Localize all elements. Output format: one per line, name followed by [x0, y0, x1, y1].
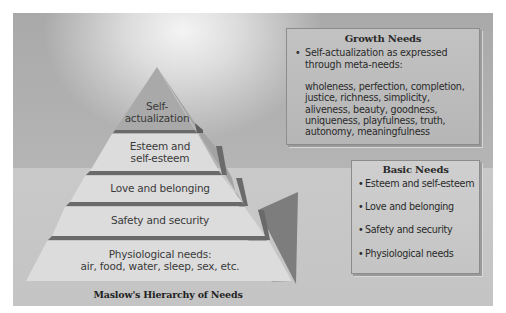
- basic-needs-item-text: Safety and security: [365, 224, 452, 235]
- meta-needs-list: wholeness, perfection, completion, justi…: [295, 81, 471, 137]
- basic-needs-box: Basic Needs •Esteem and self-esteem •Lov…: [351, 160, 480, 274]
- bullet-icon: •: [358, 248, 365, 259]
- tier-esteem: Esteem and self-esteem: [110, 140, 210, 164]
- basic-needs-item-text: Love and belonging: [365, 201, 454, 212]
- tier-label-line: Esteem and: [110, 140, 210, 152]
- tier-label-line: Safety and security: [80, 214, 240, 226]
- tier-3-ledge: [66, 202, 245, 206]
- basic-needs-item: •Physiological needs: [358, 248, 473, 259]
- tier-1-ledge: [113, 130, 197, 133]
- basic-needs-title: Basic Needs: [358, 164, 473, 175]
- growth-needs-bullet: • Self-actualization as expressed throug…: [295, 47, 471, 70]
- tier-label-line: air, food, water, sleep, sex, etc.: [40, 260, 280, 272]
- tier-label-line: self-esteem: [110, 152, 210, 164]
- bullet-icon: •: [295, 47, 305, 70]
- growth-needs-bullet-text: Self-actualization as expressed through …: [305, 47, 471, 70]
- tier-label-line: Self-: [117, 100, 197, 112]
- tier-label-line: Love and belonging: [90, 182, 230, 194]
- basic-needs-list: •Esteem and self-esteem •Love and belong…: [358, 178, 473, 259]
- growth-needs-title: Growth Needs: [295, 33, 471, 44]
- basic-needs-item: •Esteem and self-esteem: [358, 178, 473, 189]
- tier-physiological: Physiological needs: air, food, water, s…: [40, 248, 280, 272]
- tier-safety-security: Safety and security: [80, 214, 240, 226]
- bullet-icon: •: [358, 201, 365, 212]
- basic-needs-item-text: Physiological needs: [365, 248, 454, 259]
- tier-label-line: actualization: [117, 112, 197, 124]
- tier-label-line: Physiological needs:: [40, 248, 280, 260]
- tier-self-actualization: Self- actualization: [117, 100, 197, 124]
- bullet-icon: •: [358, 224, 365, 235]
- tier-2-ledge: [86, 171, 222, 175]
- bullet-icon: •: [358, 178, 365, 189]
- basic-needs-item-text: Esteem and self-esteem: [365, 178, 474, 189]
- diagram-caption: Maslow's Hierarchy of Needs: [88, 289, 248, 300]
- basic-needs-item: •Safety and security: [358, 224, 473, 235]
- tier-4-ledge: [48, 236, 269, 240]
- growth-needs-box: Growth Needs • Self-actualization as exp…: [286, 28, 480, 145]
- basic-needs-item: •Love and belonging: [358, 201, 473, 212]
- tier-love-belonging: Love and belonging: [90, 182, 230, 194]
